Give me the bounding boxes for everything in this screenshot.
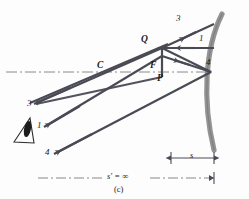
ray-label-3-exit: 3 xyxy=(27,99,32,108)
ray-diagram-canvas xyxy=(0,0,249,199)
ray-label-3-mirror: 3 xyxy=(176,14,181,23)
figure-caption: (c) xyxy=(114,185,123,194)
dimension-label-s-prime: s′ = ∞ xyxy=(107,172,128,181)
ray-label-1-mirror: 1 xyxy=(199,34,204,43)
optics-figure: C F Q P 3 1 4 3 1 4 s s′ = ∞ (c) xyxy=(0,0,249,199)
eye-icon xyxy=(14,118,34,143)
ray-label-4-mirror: 4 xyxy=(206,58,211,67)
dimension-label-s: s xyxy=(190,151,193,160)
point-label-C: C xyxy=(97,61,103,71)
ray-label-4-exit: 4 xyxy=(45,148,50,157)
concave-mirror-arc xyxy=(207,14,222,150)
point-label-Q: Q xyxy=(141,35,148,45)
point-label-F: F xyxy=(150,61,156,71)
ray-4 xyxy=(54,48,211,154)
point-label-P: P xyxy=(157,74,163,84)
ray-label-1-exit: 1 xyxy=(37,121,42,130)
